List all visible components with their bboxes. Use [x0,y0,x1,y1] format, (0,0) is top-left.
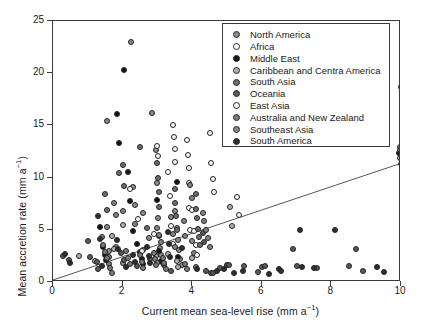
data-point [172,200,178,206]
data-point [194,266,200,272]
data-point [189,195,195,201]
data-point [97,236,103,242]
data-point [229,223,235,229]
legend-item-label: Australia and New Zealand [250,113,364,123]
data-point [181,218,187,224]
data-point [193,206,199,212]
data-point [171,134,177,140]
data-point [174,179,180,185]
y-tick-label: 25 [10,14,44,25]
data-point [154,225,160,231]
data-point [398,84,399,90]
x-tick-mark [330,281,331,286]
data-point [134,241,140,247]
data-point [353,246,359,252]
data-point [207,130,213,136]
data-point [132,221,138,227]
data-point [87,254,93,260]
data-point [155,215,161,221]
data-point [299,264,305,270]
data-point [156,189,162,195]
data-point [113,212,119,218]
legend-item-label: North America [250,30,310,40]
data-point [234,194,240,200]
data-point [165,169,171,175]
legend-marker-icon [233,126,240,133]
y-tick-label: 15 [10,118,44,129]
data-point [397,155,399,161]
data-point [221,266,227,272]
data-point [255,269,261,275]
data-point [155,153,161,159]
data-point [175,264,181,270]
data-point [137,144,143,150]
data-point [127,186,133,192]
data-point [208,160,214,166]
data-point [132,259,138,265]
x-axis-title-exponent: −1 [307,303,316,312]
legend-item[interactable]: North America [233,29,383,41]
data-point [149,110,155,116]
data-point [194,215,200,221]
data-point [151,250,157,256]
data-point [62,251,68,257]
data-point [231,270,237,276]
data-point [172,159,178,165]
legend-item[interactable]: Southeast Asia [233,123,383,135]
data-point [174,258,180,264]
data-point [179,245,185,251]
data-point [130,228,136,234]
data-point [240,268,246,274]
data-point [137,252,143,258]
data-point [374,264,380,270]
legend-item[interactable]: Middle East [233,53,383,65]
data-point [227,204,233,210]
legend-item[interactable]: Australia and New Zealand [233,112,383,124]
legend-marker-icon [233,67,240,74]
data-point [189,255,195,261]
legend-item[interactable]: South Asia [233,76,383,88]
y-tick-label: 20 [10,66,44,77]
data-point [102,249,108,255]
legend-item[interactable]: Oceania [233,88,383,100]
legend-item[interactable]: Africa [233,41,383,53]
data-point [104,255,110,261]
legend-item-label: Southeast Asia [250,125,313,135]
data-point [182,233,188,239]
data-point [186,165,192,171]
x-tick-label: 0 [37,285,67,296]
x-tick-label: 8 [315,285,345,296]
data-point [99,263,105,269]
data-point [184,137,190,143]
legend-item[interactable]: South America [233,135,383,147]
x-tick-mark [122,281,123,286]
data-point [170,122,176,128]
data-point [381,269,387,275]
data-point [165,229,171,235]
y-tick-label: 10 [10,171,44,182]
data-point [360,268,366,274]
data-point [173,213,179,219]
data-point [297,227,303,233]
data-point [104,224,110,230]
legend-marker-icon [233,79,240,86]
data-point [266,271,272,277]
data-point [146,235,152,241]
legend-item[interactable]: East Asia [233,100,383,112]
data-point [194,252,200,258]
y-axis-title-exponent: −1 [14,160,23,169]
legend-item-label: Caribbean and Centra America [250,66,380,76]
data-point [155,175,161,181]
data-point [211,189,217,195]
legend-marker-icon [233,31,240,38]
data-point [214,268,220,274]
x-tick-label: 4 [176,285,206,296]
data-point [168,214,174,220]
legend-marker-icon [233,43,240,50]
data-point [278,268,284,274]
legend-marker-icon [233,114,240,121]
legend-item[interactable]: Caribbean and Centra America [233,64,383,76]
data-point [114,237,120,243]
data-point [85,238,91,244]
data-point [203,227,209,233]
